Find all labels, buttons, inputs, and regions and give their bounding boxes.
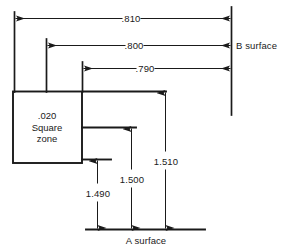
dimension-label-1500: 1.500 [120,174,144,185]
engineering-drawing-canvas: .810 .800 .790 B surface A surface .020 … [0,0,281,251]
dimension-label-800: .800 [125,40,144,51]
dimension-label-810: .810 [122,13,141,24]
square-zone-label: .020 Square zone [32,110,63,145]
dimension-label-790: .790 [136,63,155,74]
b-surface-label: B surface [236,40,277,51]
dimension-label-1510: 1.510 [154,156,178,167]
a-surface-label: A surface [126,235,167,246]
dimension-label-1490: 1.490 [86,188,110,199]
